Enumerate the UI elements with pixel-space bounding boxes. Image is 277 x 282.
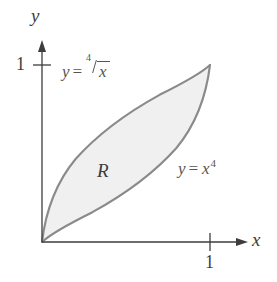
y-axis-label: y xyxy=(31,6,39,25)
plot-canvas xyxy=(0,0,277,282)
curve-label-quartic: y=x4 xyxy=(178,160,216,177)
curve-label-quartic-equals: = xyxy=(186,160,202,177)
x-axis-arrowhead xyxy=(236,238,248,246)
radical-index: 4 xyxy=(86,53,91,63)
curve-label-fourth-root-equals: = xyxy=(70,63,86,80)
curve-label-quartic-exponent: 4 xyxy=(210,157,217,169)
curve-label-fourth-root-lhs: y xyxy=(62,63,70,80)
x-axis-tick-label-1: 1 xyxy=(205,253,214,271)
y-axis-tick-label-1: 1 xyxy=(16,55,25,73)
curve-label-fourth-root: y=4x xyxy=(62,61,110,80)
radical-sign-icon: 4x xyxy=(86,61,110,80)
curve-label-quartic-base: x xyxy=(202,160,210,177)
y-axis-arrowhead xyxy=(38,40,46,52)
shaded-region-R xyxy=(42,65,210,242)
figure-region-between-curves: y x 1 1 y=4x y=x4 R xyxy=(0,0,277,282)
x-axis-label: x xyxy=(252,230,260,249)
curve-label-quartic-lhs: y xyxy=(178,160,186,177)
region-label-R: R xyxy=(97,161,109,180)
